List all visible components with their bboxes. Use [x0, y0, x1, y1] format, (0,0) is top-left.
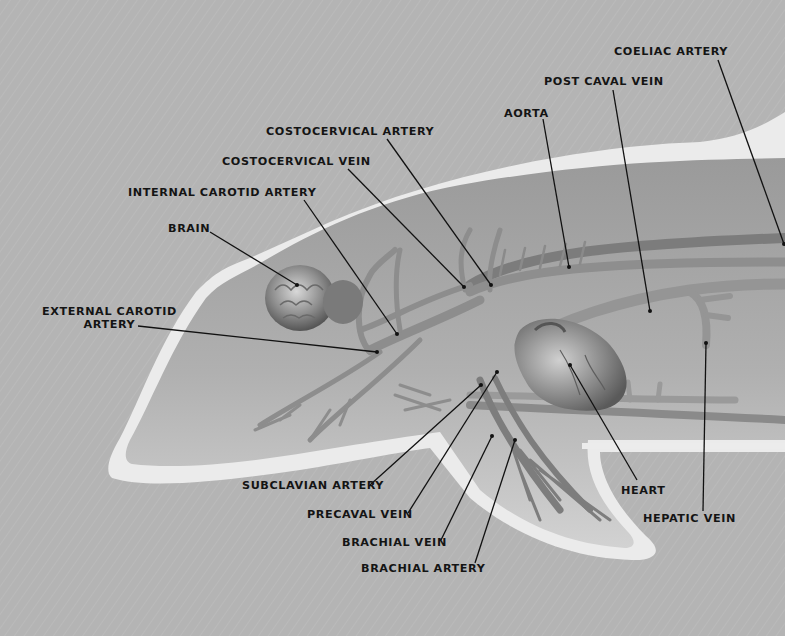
label-precaval-vein: PRECAVAL VEIN	[307, 508, 413, 521]
leader-dot-costocervical-artery	[489, 283, 493, 287]
label-heart: HEART	[621, 484, 665, 497]
leader-dot-brain	[295, 283, 299, 287]
label-post-caval-vein: POST CAVAL VEIN	[544, 75, 664, 88]
leader-dot-heart	[568, 363, 572, 367]
leader-dot-precaval-vein	[495, 370, 499, 374]
label-external-carotid-line1: EXTERNAL CAROTID	[42, 305, 177, 318]
leader-dot-brachial-artery	[513, 438, 517, 442]
leader-dot-aorta	[567, 265, 571, 269]
label-external-carotid-artery: EXTERNAL CAROTID ARTERY	[42, 305, 177, 331]
label-aorta: AORTA	[504, 107, 549, 120]
leader-dot-brachial-vein	[490, 434, 494, 438]
dolphin-circulatory-diagram: COELIAC ARTERY POST CAVAL VEIN AORTA COS…	[0, 0, 785, 636]
label-coeliac-artery: COELIAC ARTERY	[614, 45, 728, 58]
leader-dot-external-carotid-artery	[375, 350, 379, 354]
label-internal-carotid-artery: INTERNAL CAROTID ARTERY	[128, 186, 316, 199]
label-brachial-artery: BRACHIAL ARTERY	[361, 562, 485, 575]
leader-dot-internal-carotid-artery	[395, 332, 399, 336]
label-brain: BRAIN	[168, 222, 210, 235]
leader-dot-post-caval-vein	[648, 309, 652, 313]
label-costocervical-vein: COSTOCERVICAL VEIN	[222, 155, 371, 168]
leader-dot-costocervical-vein	[462, 285, 466, 289]
label-brachial-vein: BRACHIAL VEIN	[342, 536, 447, 549]
label-external-carotid-line2: ARTERY	[42, 318, 177, 331]
leader-dot-subclavian-artery	[479, 383, 483, 387]
label-hepatic-vein: HEPATIC VEIN	[643, 512, 736, 525]
leader-dot-hepatic-vein	[704, 341, 708, 345]
label-subclavian-artery: SUBCLAVIAN ARTERY	[242, 479, 384, 492]
label-costocervical-artery: COSTOCERVICAL ARTERY	[266, 125, 434, 138]
